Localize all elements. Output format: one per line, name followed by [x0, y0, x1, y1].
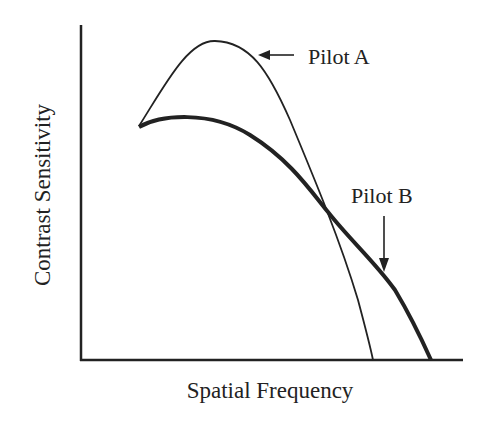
contrast-sensitivity-chart: Pilot A Pilot B Spatial Frequency Contra…	[0, 0, 487, 427]
pilot-a-arrow	[258, 50, 294, 60]
pilot-b-label: Pilot B	[351, 183, 413, 208]
pilot-b-arrow	[379, 216, 389, 272]
pilot-a-label: Pilot A	[308, 44, 370, 69]
x-axis-label: Spatial Frequency	[187, 378, 354, 403]
pilot-b-curve	[139, 117, 431, 360]
y-axis-label: Contrast Sensitivity	[30, 103, 55, 286]
pilot-a-curve	[139, 41, 373, 360]
